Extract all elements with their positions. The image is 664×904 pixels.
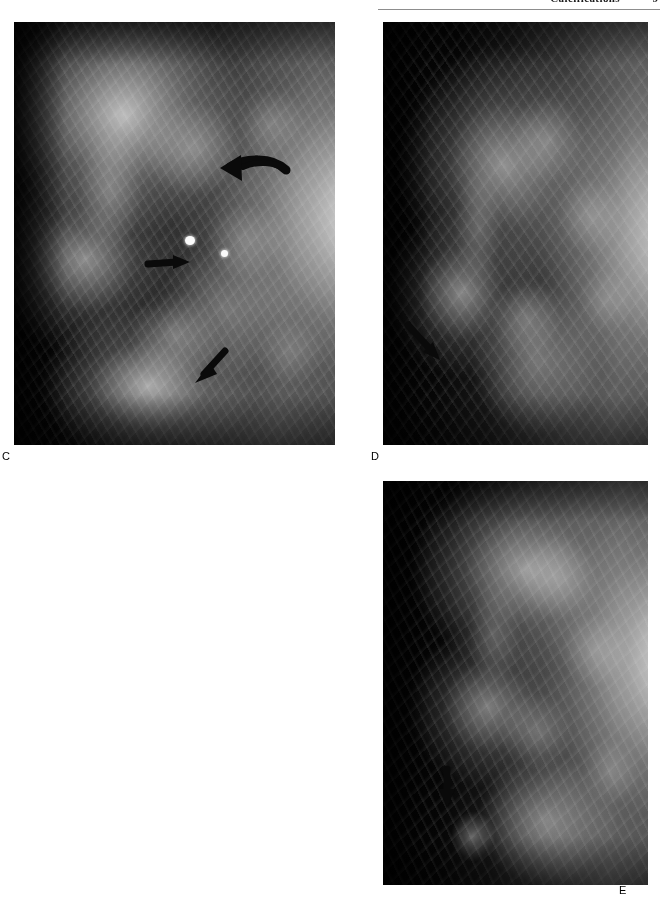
page-header: Calcifications 9	[0, 0, 664, 14]
mammogram-image-d	[383, 22, 648, 445]
mammogram-image-c	[14, 22, 335, 445]
calcification-small	[221, 250, 228, 257]
figure-label-e: E	[619, 884, 627, 896]
figure-panel-d	[383, 22, 648, 445]
calcification-large	[185, 236, 195, 245]
running-head-title: Calcifications	[550, 0, 620, 4]
page-number: 9	[653, 0, 659, 4]
figure-panel-e	[383, 481, 648, 885]
figure-label-d: D	[371, 450, 379, 462]
figure-label-c: C	[2, 450, 10, 462]
mammogram-image-e	[383, 481, 648, 885]
figure-panel-c	[14, 22, 335, 445]
header-rule	[378, 9, 660, 10]
